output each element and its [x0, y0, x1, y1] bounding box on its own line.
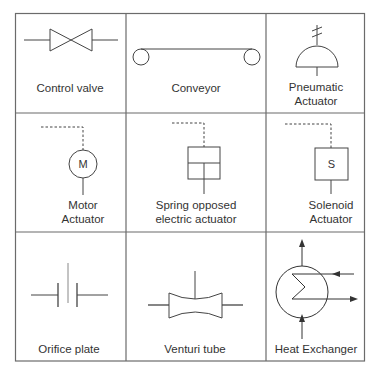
motor-actuator-icon: M — [41, 127, 97, 195]
label-motor-actuator-1: Motor — [68, 198, 97, 212]
label-venturi-tube: Venturi tube — [164, 342, 225, 356]
label-solenoid-actuator-1: Solenoid — [309, 198, 354, 212]
spring-opposed-actuator-icon — [172, 123, 220, 194]
venturi-tube-icon — [148, 271, 243, 318]
label-conveyor: Conveyor — [171, 81, 220, 95]
motor-letter: M — [78, 158, 87, 170]
label-pneumatic-actuator-1: Pneumatic — [289, 80, 343, 94]
symbol-grid: M S — [0, 0, 378, 372]
control-valve-icon — [24, 29, 118, 51]
label-orifice-plate: Orifice plate — [38, 342, 99, 356]
label-solenoid-actuator-2: Actuator — [310, 212, 353, 226]
label-spring-opposed-2: electric actuator — [155, 212, 236, 226]
label-spring-opposed-1: Spring opposed — [156, 198, 237, 212]
grid-lines — [15, 13, 365, 361]
pneumatic-actuator-icon — [296, 25, 338, 76]
orifice-plate-icon — [31, 263, 108, 307]
label-heat-exchanger: Heat Exchanger — [275, 342, 357, 356]
solenoid-letter: S — [328, 158, 335, 170]
label-motor-actuator-2: Actuator — [62, 212, 105, 226]
solenoid-actuator-icon: S — [285, 124, 348, 194]
heat-exchanger-icon — [276, 243, 354, 339]
symbol-table: M S — [0, 0, 378, 372]
label-control-valve: Control valve — [36, 81, 103, 95]
label-pneumatic-actuator-2: Actuator — [295, 94, 338, 108]
conveyor-icon — [133, 49, 260, 65]
